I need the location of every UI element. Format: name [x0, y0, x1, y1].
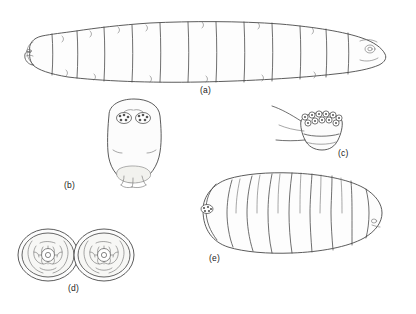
figure-plate: (a) (b) (c) (d) (e) — [0, 0, 416, 314]
section-left — [18, 229, 78, 281]
figure-drawing — [0, 0, 416, 314]
panel-label-e: (e) — [209, 253, 220, 263]
panel-label-d: (d) — [68, 283, 79, 293]
panel-a-larva — [25, 22, 386, 83]
panel-c-spiracular-plate — [272, 106, 342, 150]
panel-b-head-capsule — [108, 99, 162, 188]
panel-label-a: (a) — [200, 85, 211, 95]
section-right — [74, 229, 134, 281]
panel-label-b: (b) — [64, 180, 75, 190]
panel-label-c: (c) — [338, 148, 349, 158]
panel-e-puparium — [201, 173, 382, 254]
panel-d-transverse-sections — [18, 229, 134, 281]
